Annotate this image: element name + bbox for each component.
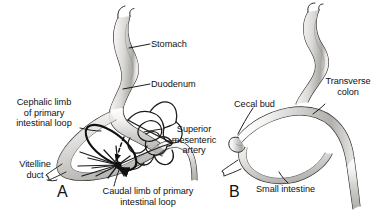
label-small-intestine: Small intestine [256,184,315,195]
label-duodenum: Duodenum [151,79,196,90]
stomach-structure [110,6,139,110]
label-caudal-limb-line1: Caudal limb of primary [94,186,202,197]
leader-vitelline-duct [47,180,57,181]
loop-tail-b [222,160,241,176]
figure-canvas: Stomach Duodenum Cephalic limb of primar… [0,0,381,219]
label-transverse-colon-line1: Transverse [318,76,378,87]
panel-letter-b: B [229,184,240,200]
label-vitelline-duct-line2: duct [10,170,60,181]
panel-a-drawing [46,6,197,186]
leader-stomach [129,44,150,48]
label-sma-line2: mesenteric [162,135,226,146]
label-cephalic-limb-line2: of primary [6,108,82,119]
panel-letter-a: A [57,184,68,200]
label-sma-line3: artery [164,145,224,156]
label-cecal-bud: Cecal bud [234,99,275,110]
label-cephalic-limb-line3: intestinal loop [4,118,84,129]
label-cephalic-limb-line1: Cephalic limb [6,97,82,108]
small-intestine-structure [239,144,333,184]
label-sma-line1: Superior [164,124,224,135]
label-stomach: Stomach [151,39,187,50]
label-transverse-colon-line2: colon [318,87,378,98]
label-caudal-limb-line2: intestinal loop [94,197,202,208]
descending-colon-structure [347,158,360,209]
label-vitelline-duct-line1: Vitelline [8,159,62,170]
transverse-colon-structure [238,107,354,166]
